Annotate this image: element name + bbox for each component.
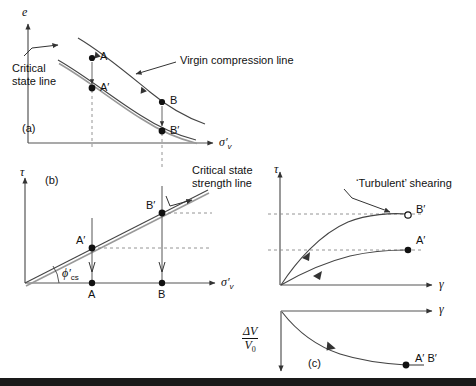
panel-a-point-B (159, 99, 165, 105)
panel-a-label-A: A (100, 50, 107, 62)
panel-a-tag: (a) (22, 122, 35, 134)
panel-c-curve (282, 312, 406, 365)
panel-b-annotation-critical-state-strength-line: Critical state strength line (192, 164, 253, 190)
panel-a-annotation-csl-line1: Critical (12, 62, 56, 75)
panel-b-angle-label-sub: cs (71, 273, 79, 282)
panel-a-virgin-compression-curve (78, 38, 205, 124)
panel-c-y-axis-fraction: ΔV V0 (242, 325, 258, 354)
panel-b-label-Aprime: A′ (76, 234, 85, 246)
panel-shear-leader-turbulent (344, 189, 390, 212)
panel-c-arrow (326, 342, 336, 352)
panel-b-strength-line-lower (26, 193, 209, 286)
panel-b-x-axis-label-sub: v (230, 282, 234, 291)
panel-c-point-AprimeBprime (403, 362, 410, 369)
panel-shear-label-Bprime: B′ (416, 203, 425, 215)
panel-c-label-AprimeBprime: A′ B′ (415, 352, 437, 364)
panel-a-x-axis-label-main: σ′ (219, 135, 228, 149)
panel-a-x-axis-label-sub: v (228, 142, 232, 151)
panel-a-label-Bprime: B′ (170, 124, 179, 136)
panel-c-axes (281, 311, 432, 371)
panel-a-y-axis-label: e (22, 6, 27, 19)
panel-b-label-Bprime: B′ (146, 199, 155, 211)
panel-shear-y-axis-label: τ (274, 163, 278, 176)
figure-root: e σ′v (a) A A′ B B′ Virgin compression l… (0, 0, 476, 386)
panel-a-point-Bprime (159, 128, 166, 135)
panel-b-tag: (b) (45, 174, 58, 186)
panel-c-x-axis-label: γ (439, 303, 444, 316)
panel-c-y-axis-den-main: V (245, 338, 252, 352)
panel-shear-x-axis-label: γ (439, 278, 444, 291)
panel-b-point-Bprime (159, 210, 166, 217)
panel-a-leader-csl (24, 45, 58, 56)
panel-b-strength-line-upper (25, 190, 208, 283)
panel-b-annotation-cssl-line1: Critical state (192, 164, 253, 177)
panel-a-label-B: B (170, 94, 177, 106)
panel-b-label-A: A (88, 288, 95, 300)
panel-c-y-axis-den-sub: 0 (252, 345, 256, 354)
panel-c-tag: (c) (308, 357, 321, 369)
panel-a-x-axis-label: σ′v (219, 136, 232, 152)
panel-shear-annotation-turbulent-shearing: ‘Turbulent’ shearing (356, 177, 452, 189)
panel-a-annotation-csl-line2: state line (12, 75, 56, 88)
panel-c-y-axis-label: ΔV V0 (242, 325, 258, 354)
panel-b-x-axis-label-main: σ′ (221, 275, 230, 289)
panel-a-vcl-arrow-2 (141, 87, 148, 95)
panel-shear-curve-Aprime (281, 250, 406, 285)
bottom-band (0, 378, 476, 386)
panel-b-angle-label-main: ϕ′ (62, 266, 71, 280)
panel-shear-point-Bprime (405, 212, 411, 218)
panel-shear-arrow-lower (313, 271, 322, 280)
panel-a-label-Aprime: A′ (100, 81, 109, 93)
panel-b-angle-label: ϕ′cs (62, 267, 79, 283)
panel-c-y-axis-denominator: V0 (242, 339, 258, 355)
panel-b-label-B: B (158, 288, 165, 300)
panel-a-annotation-virgin-compression-line: Virgin compression line (180, 54, 294, 66)
panel-shear-point-Aprime (405, 247, 412, 254)
panel-b-y-axis-label: τ (20, 166, 24, 179)
panel-c-y-axis-numerator: ΔV (242, 325, 258, 339)
panel-b-annotation-cssl-line2: strength line (192, 177, 253, 190)
panel-b-point-Aprime (89, 245, 96, 252)
panel-a-point-A (89, 55, 95, 61)
panel-b-x-axis-label: σ′v (221, 276, 234, 292)
panel-a-leader-vcl (136, 62, 176, 74)
panel-b-point-B (159, 280, 165, 286)
panel-b-point-A (89, 280, 95, 286)
panel-a-annotation-critical-state-line: Critical state line (12, 62, 56, 88)
panel-shear-label-Aprime: A′ (416, 234, 425, 246)
panel-a-point-Aprime (89, 85, 96, 92)
